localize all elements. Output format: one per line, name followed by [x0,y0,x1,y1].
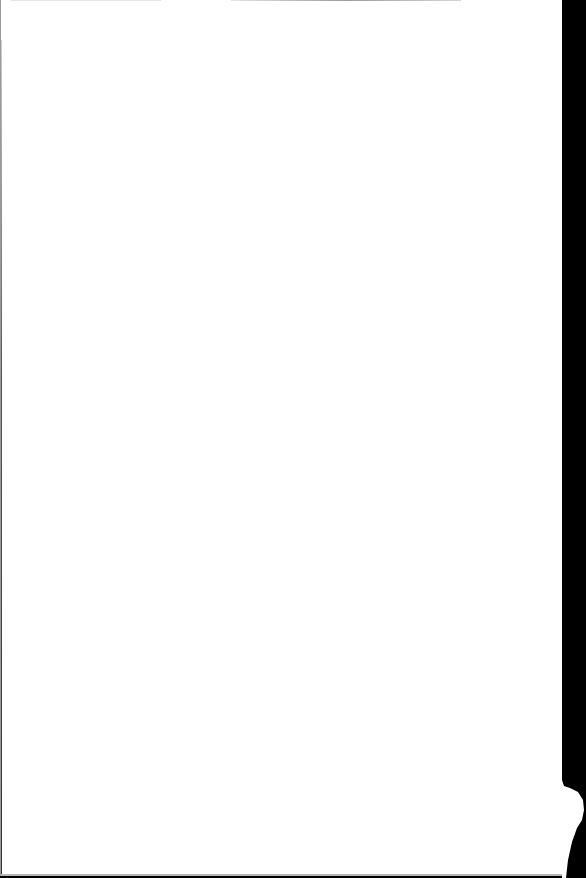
page-content [1,0,562,876]
scanned-page-view [0,0,586,878]
torn-page-corner [562,780,586,878]
blank-page [0,0,562,876]
